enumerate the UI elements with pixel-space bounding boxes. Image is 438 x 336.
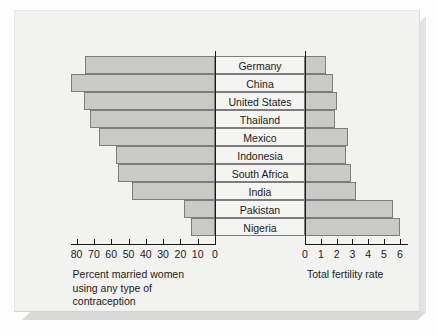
category-cell: Nigeria — [215, 218, 305, 236]
left-tick-70 — [94, 239, 95, 244]
category-cell: Mexico — [215, 128, 305, 146]
bar-left-thailand — [90, 110, 215, 128]
bar-left-indonesia — [116, 146, 215, 164]
bar-right-indonesia — [305, 146, 346, 164]
category-label: India — [216, 183, 304, 201]
bar-left-south-africa — [118, 164, 215, 182]
bar-left-united-states — [84, 92, 215, 110]
left-tick-label-0: 0 — [203, 248, 227, 260]
right-axis-line — [305, 244, 408, 245]
category-label: South Africa — [216, 165, 304, 183]
category-label: Germany — [216, 57, 304, 75]
category-cell: Thailand — [215, 110, 305, 128]
zero-axis-right — [305, 51, 306, 241]
chart-panel-inner: GermanyChinaUnited StatesThailandMexicoI… — [35, 23, 401, 299]
category-cell: United States — [215, 92, 305, 110]
bar-right-south-africa — [305, 164, 351, 182]
right-tick-3 — [352, 239, 353, 244]
bar-right-pakistan — [305, 200, 393, 218]
bar-right-india — [305, 182, 356, 200]
left-tick-20 — [180, 239, 181, 244]
right-tick-5 — [384, 239, 385, 244]
bar-right-germany — [305, 56, 326, 74]
bar-right-united-states — [305, 92, 337, 110]
left-tick-10 — [198, 239, 199, 244]
category-label: China — [216, 75, 304, 93]
bar-left-nigeria — [191, 218, 215, 236]
category-label: United States — [216, 93, 304, 111]
left-tick-30 — [163, 239, 164, 244]
left-axis-caption: Percent married women using any type of … — [73, 268, 184, 309]
bar-left-mexico — [99, 128, 215, 146]
left-tick-60 — [111, 239, 112, 244]
category-cell: India — [215, 182, 305, 200]
category-cell: China — [215, 74, 305, 92]
left-tick-50 — [129, 239, 130, 244]
zero-axis-left — [215, 51, 216, 241]
right-tick-6 — [400, 239, 401, 244]
bar-left-pakistan — [184, 200, 215, 218]
screenshot-root: GermanyChinaUnited StatesThailandMexicoI… — [0, 0, 438, 336]
left-tick-0 — [215, 239, 216, 244]
category-cell: Pakistan — [215, 200, 305, 218]
category-label: Thailand — [216, 111, 304, 129]
right-tick-0 — [305, 239, 306, 244]
category-label: Nigeria — [216, 219, 304, 237]
bar-left-india — [132, 182, 215, 200]
category-cell: South Africa — [215, 164, 305, 182]
right-tick-4 — [368, 239, 369, 244]
category-label: Mexico — [216, 129, 304, 147]
bar-right-china — [305, 74, 333, 92]
left-tick-80 — [77, 239, 78, 244]
left-axis-line — [71, 244, 216, 245]
category-cell: Indonesia — [215, 146, 305, 164]
bar-right-mexico — [305, 128, 348, 146]
right-tick-2 — [337, 239, 338, 244]
bidirectional-bar-chart: GermanyChinaUnited StatesThailandMexicoI… — [35, 23, 438, 323]
category-label: Indonesia — [216, 147, 304, 165]
bar-left-china — [71, 74, 215, 92]
right-axis-caption: Total fertility rate — [307, 268, 383, 282]
bar-right-thailand — [305, 110, 335, 128]
right-tick-label-6: 6 — [388, 248, 412, 260]
chart-panel: GermanyChinaUnited StatesThailandMexicoI… — [14, 10, 420, 312]
right-tick-1 — [321, 239, 322, 244]
bar-right-nigeria — [305, 218, 400, 236]
left-tick-40 — [146, 239, 147, 244]
category-cell: Germany — [215, 56, 305, 74]
category-label: Pakistan — [216, 201, 304, 219]
bar-left-germany — [85, 56, 215, 74]
